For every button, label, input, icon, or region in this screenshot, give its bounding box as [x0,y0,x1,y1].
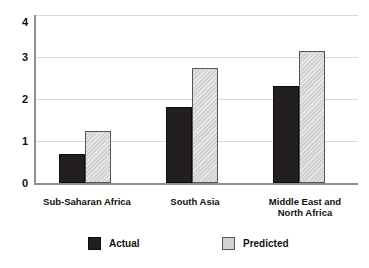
legend-swatch-actual-icon [88,237,101,250]
y-tick-label-0: 0 [6,178,28,189]
bar-predicted-south-asia [192,68,218,184]
bar-group-middle-east-north-africa [273,15,327,183]
bar-predicted-sub-saharan-africa [85,131,111,184]
y-tick-label-3: 3 [6,52,28,63]
legend-swatch-predicted-icon [222,237,235,250]
bar-actual-sub-saharan-africa [59,154,85,183]
bar-group-sub-saharan-africa [59,15,113,183]
bar-group-south-asia [166,15,220,183]
x-category-label-line: Middle East and [246,196,364,207]
legend-item-actual: Actual [88,237,140,250]
chart-legend: Actual Predicted [0,237,369,259]
y-tick-label-1: 1 [6,136,28,147]
x-category-label-south-asia: South Asia [140,196,250,207]
x-category-label-line: North Africa [246,207,364,218]
x-category-label-line: Sub-Saharan Africa [27,196,147,207]
bar-chart: 0 1 2 3 4 Sub-Saharan Africa South Asia … [0,0,369,268]
y-axis-line [34,15,36,184]
bar-actual-middle-east-north-africa [273,86,299,183]
legend-label-predicted: Predicted [243,237,289,250]
y-tick-label-4: 4 [6,17,28,28]
y-tick-label-2: 2 [6,94,28,105]
x-axis-line [34,183,358,185]
bar-actual-south-asia [166,107,192,183]
bar-predicted-middle-east-north-africa [299,51,325,183]
x-category-label-sub-saharan-africa: Sub-Saharan Africa [27,196,147,207]
x-category-label-middle-east-north-africa: Middle East and North Africa [246,196,364,218]
legend-item-predicted: Predicted [222,237,289,250]
plot-area [35,15,358,183]
legend-label-actual: Actual [109,237,140,250]
x-category-label-line: South Asia [140,196,250,207]
